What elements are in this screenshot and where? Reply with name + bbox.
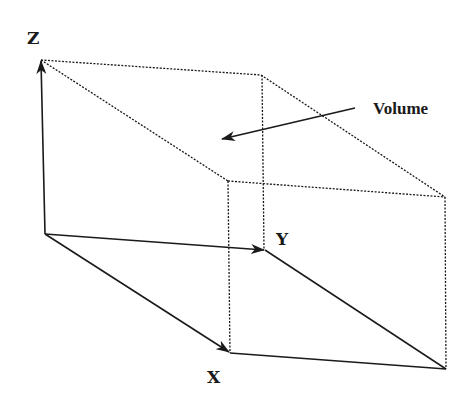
edge-bottom-right-diagonal [265, 250, 446, 369]
y-axis-arrow [45, 234, 264, 250]
x-axis-arrow [45, 234, 229, 352]
volume-diagram: Z Y X Volume [0, 0, 476, 409]
y-axis-label: Y [276, 231, 288, 248]
volume-label: Volume [373, 100, 428, 117]
edge-top-right-diagonal [261, 75, 445, 197]
x-axis-label: X [207, 369, 220, 386]
edge-front-right-vertical [445, 197, 446, 369]
solid-edges [230, 250, 446, 369]
edge-top-back [41, 60, 261, 75]
edge-back-vertical [262, 75, 264, 250]
edge-top-left-diagonal [41, 60, 228, 181]
z-axis-arrow [41, 61, 45, 234]
edge-front-top [228, 181, 445, 197]
z-axis-label: Z [27, 30, 39, 47]
box-volume-drawing [0, 0, 476, 409]
edge-bottom-front [230, 353, 446, 369]
edge-front-left-vertical [228, 181, 230, 353]
axes [41, 61, 264, 352]
